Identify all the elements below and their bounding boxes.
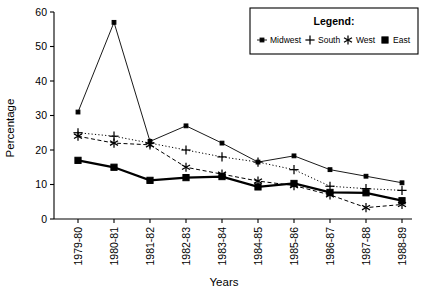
marker-east-0 [75,157,81,163]
marker-east-6 [291,180,297,186]
x-tick-label: 1987-88 [360,227,372,266]
y-tick-label: 40 [35,75,47,87]
y-tick-label: 0 [41,213,47,225]
y-tick-label: 60 [35,6,47,18]
y-axis-title: Percentage [4,99,16,158]
marker-midwest-0 [76,110,80,114]
y-tick-label: 20 [35,144,47,156]
marker-east-4 [219,173,225,179]
marker-east-2 [147,177,153,183]
marker-east-5 [255,184,261,190]
marker-east-1 [111,164,117,170]
x-tick-label: 1980-81 [108,227,120,266]
x-axis-title: Years [210,276,239,288]
x-tick-label: 1986-87 [324,227,336,266]
filled-square-marker-icon [382,37,388,43]
x-tick-label: 1981-82 [144,227,156,266]
y-tick-label: 50 [35,40,47,52]
marker-east-3 [183,175,189,181]
marker-midwest-9 [400,181,404,185]
marker-midwest-3 [184,124,188,128]
marker-midwest-6 [292,154,296,158]
marker-midwest-1 [112,20,116,24]
legend[interactable]: Legend:MidwestSouthWestEast [250,8,418,54]
legend-title: Legend: [314,15,355,27]
legend-label-east: East [393,35,411,45]
y-tick-label: 10 [35,178,47,190]
marker-east-9 [399,198,405,204]
line-small-square-marker-icon [260,38,264,42]
legend-label-south: South [318,35,340,45]
legend-label-midwest: Midwest [270,35,302,45]
marker-midwest-7 [328,168,332,172]
marker-east-8 [363,190,369,196]
marker-midwest-4 [220,141,224,145]
line-chart-canvas: 0102030405060 1979-801980-811981-821982-… [0,0,426,292]
x-tick-label: 1982-83 [180,227,192,266]
x-tick-label: 1983-84 [216,227,228,266]
y-tick-label: 30 [35,109,47,121]
x-tick-label: 1985-86 [288,227,300,266]
chart-figure: 0102030405060 1979-801980-811981-821982-… [0,0,426,292]
x-tick-label: 1984-85 [252,227,264,266]
legend-label-west: West [356,35,376,45]
marker-east-7 [327,189,333,195]
x-tick-label: 1988-89 [396,227,408,266]
marker-midwest-8 [364,174,368,178]
x-tick-label: 1979-80 [72,227,84,266]
